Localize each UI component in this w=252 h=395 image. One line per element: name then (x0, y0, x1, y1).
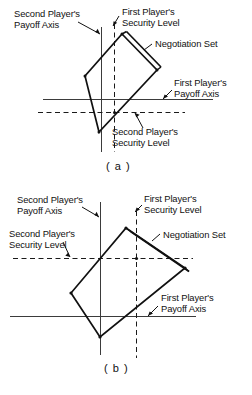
panel-b-leader-negotiation-set (152, 234, 160, 241)
panel-b-caption: ( b ) (104, 362, 129, 374)
panel-b-vertex-top (124, 226, 127, 229)
panel-b-vertex-left (69, 291, 72, 294)
panel-b-payoff-polygon (71, 228, 185, 337)
panel-b-status-quo-point (135, 257, 138, 260)
panel-a-vertex-bottom (98, 131, 101, 134)
panel-b-vertex-bottom (98, 335, 101, 338)
panel-a-label-second-player-security-level: Second Player's Security Level (112, 126, 178, 148)
panel-a-label-first-player-security-level: First Player's Security Level (122, 6, 179, 28)
panel-a-caption: ( a ) (106, 160, 131, 172)
panel-b-label-first-player-payoff-axis: First Player's Payoff Axis (161, 292, 213, 314)
panel-b-label-second-player-payoff-axis: Second Player's Payoff Axis (17, 194, 83, 216)
panel-a-leader-negotiation-set (144, 44, 152, 50)
panel-a-label-first-player-payoff-axis: First Player's Payoff Axis (174, 77, 226, 99)
panel-a-vertex-left (84, 75, 87, 78)
panel-a-vertex-right (156, 69, 159, 72)
panel-a-leader-first-player-security-level-arrow (113, 21, 117, 26)
panel-b-vertex-right (183, 266, 186, 269)
panel-b-label-negotiation-set: Negotiation Set (163, 229, 226, 240)
panel-b (10, 202, 196, 358)
panel-b-label-second-player-security-level: Second Player's Security Level (9, 228, 75, 250)
panel-b-label-first-player-security-level: First Player's Security Level (144, 193, 201, 215)
panel-a-label-second-player-payoff-axis: Second Player's Payoff Axis (14, 8, 80, 30)
panel-a-label-negotiation-set: Negotiation Set (155, 38, 218, 49)
panel-a-vertex-top (121, 33, 124, 36)
figure-root: Second Player's Payoff Axis First Player… (0, 0, 252, 395)
panel-a-negotiation-set-edge (127, 32, 162, 68)
